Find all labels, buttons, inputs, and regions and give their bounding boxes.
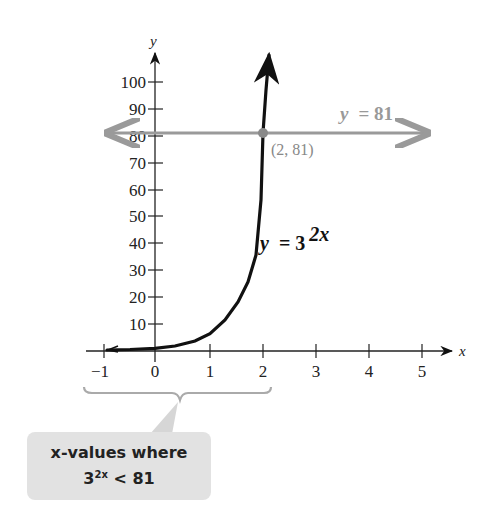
x-axis-label: x	[458, 343, 466, 359]
callout-line1: x-values where	[27, 442, 211, 464]
svg-text:40: 40	[129, 234, 146, 253]
svg-text:50: 50	[129, 207, 146, 226]
svg-text:−1: −1	[91, 362, 109, 381]
intersection-point	[258, 128, 268, 138]
range-brace	[84, 387, 271, 400]
svg-text:10: 10	[129, 315, 146, 334]
svg-text:80: 80	[129, 127, 146, 146]
svg-text:90: 90	[129, 100, 146, 119]
svg-text:60: 60	[129, 181, 146, 200]
y-tick-labels: 10 20 30 40 50 60 70 80 90 100	[121, 73, 147, 334]
svg-text:30: 30	[129, 261, 146, 280]
x-tick-labels: −1 0 1 2 3 4 5	[91, 362, 426, 381]
svg-text:4: 4	[365, 362, 374, 381]
svg-text:100: 100	[121, 73, 147, 92]
curve-label: y = 3 2x	[258, 223, 329, 255]
svg-text:20: 20	[129, 288, 146, 307]
svg-text:70: 70	[129, 154, 146, 173]
svg-text:3: 3	[312, 362, 321, 381]
svg-text:2: 2	[259, 362, 268, 381]
svg-text:0: 0	[151, 362, 160, 381]
callout-box: x-values where 32x < 81	[27, 432, 211, 500]
hline-label: y = 81	[338, 103, 393, 124]
point-label: (2, 81)	[271, 141, 314, 159]
callout-line2: 32x < 81	[27, 464, 211, 490]
y-axis-label: y	[148, 33, 157, 49]
callout-pointer	[150, 402, 178, 434]
svg-text:1: 1	[206, 362, 215, 381]
svg-text:5: 5	[418, 362, 427, 381]
